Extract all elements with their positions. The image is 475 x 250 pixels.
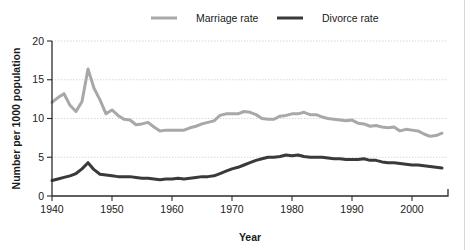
x-tick-label-1970: 1970 — [220, 203, 244, 215]
legend-label-marriage-rate: Marriage rate — [196, 12, 259, 24]
marriage-divorce-rate-line-chart: 051015201940195019601970198019902000Year… — [0, 0, 475, 250]
y-tick-label-15: 15 — [32, 73, 44, 85]
y-tick-label-0: 0 — [38, 190, 44, 202]
y-axis-title: Number per 1000 population — [10, 48, 22, 190]
x-tick-label-1940: 1940 — [40, 203, 64, 215]
x-tick-label-1990: 1990 — [340, 203, 364, 215]
x-tick-label-1960: 1960 — [160, 203, 184, 215]
x-tick-label-1950: 1950 — [100, 203, 124, 215]
chart-figure: 051015201940195019601970198019902000Year… — [0, 0, 475, 250]
legend-label-divorce-rate: Divorce rate — [322, 12, 379, 24]
series-line-divorce-rate — [52, 155, 442, 181]
x-tick-label-1980: 1980 — [280, 203, 304, 215]
x-tick-label-2000: 2000 — [400, 203, 424, 215]
y-tick-label-20: 20 — [32, 35, 44, 47]
y-tick-label-10: 10 — [32, 112, 44, 124]
x-axis-title: Year — [239, 231, 261, 243]
x-axis-line — [52, 189, 448, 196]
right-border-rule — [464, 0, 465, 250]
y-tick-label-5: 5 — [38, 151, 44, 163]
series-line-marriage-rate — [52, 69, 442, 136]
